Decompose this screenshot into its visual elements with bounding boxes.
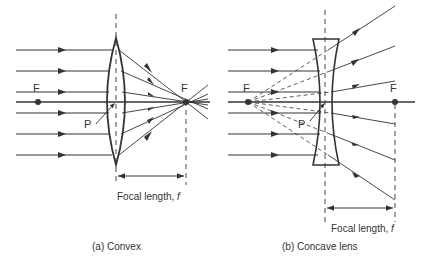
concave-focus-left-label: F xyxy=(243,82,250,94)
convex-focus-right-label: F xyxy=(181,82,188,94)
concave-pole-label: P xyxy=(298,118,305,130)
convex-focus-left-label: F xyxy=(33,82,40,94)
convex-focus-right-dot xyxy=(183,99,189,105)
convex-lens-diagram xyxy=(16,14,210,185)
concave-lens-diagram xyxy=(228,6,415,222)
concave-focus-right-dot xyxy=(392,99,398,105)
concave-focal-length-label: Focal length, f xyxy=(331,223,394,234)
convex-focus-left-dot xyxy=(35,99,41,105)
convex-pole-label: P xyxy=(84,118,91,130)
concave-focus-right-label: F xyxy=(390,82,397,94)
convex-caption: (a) Convex xyxy=(92,241,141,252)
convex-focal-length-label: Focal length, f xyxy=(117,191,180,202)
concave-focus-left-dot xyxy=(245,99,251,105)
concave-caption: (b) Concave lens xyxy=(282,241,358,252)
lens-diagram: F F P Focal length, f (a) Convex F F P F… xyxy=(0,0,431,265)
